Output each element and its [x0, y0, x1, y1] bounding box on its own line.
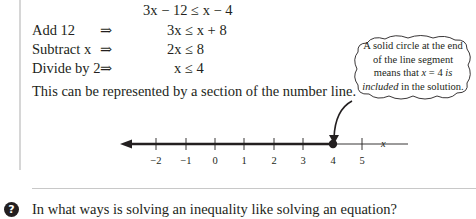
- axis-label: x: [380, 138, 386, 149]
- svg-text:−1: −1: [180, 155, 191, 166]
- svg-text:2: 2: [271, 155, 276, 166]
- discussion-question: In what ways is solving an inequality li…: [32, 201, 397, 218]
- svg-text:3: 3: [300, 155, 305, 166]
- question-icon: ?: [4, 202, 19, 217]
- svg-text:1: 1: [241, 155, 246, 166]
- svg-text:−2: −2: [150, 155, 161, 166]
- callout-pointer-arrow: [334, 101, 352, 138]
- svg-text:4: 4: [330, 155, 336, 166]
- number-line: −2 −1 0 1 2 3 4 5 x: [0, 0, 476, 219]
- left-arrow-icon: [120, 140, 132, 149]
- svg-text:5: 5: [359, 155, 364, 166]
- svg-text:0: 0: [212, 155, 217, 166]
- section-divider: [32, 188, 476, 189]
- solid-circle-endpoint: [329, 140, 337, 148]
